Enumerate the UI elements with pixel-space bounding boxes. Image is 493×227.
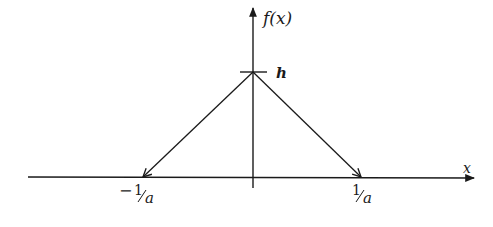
left-tick-label: − 1 a: [119, 181, 154, 207]
left-tick-numerator: 1: [134, 182, 143, 198]
y-axis-label: f(x): [261, 8, 292, 28]
right-slope-line: [253, 72, 361, 177]
right-tick-denominator: a: [363, 189, 372, 207]
left-slope-line: [143, 72, 253, 177]
x-axis-label: x: [463, 160, 471, 176]
peak-label: h: [276, 64, 287, 82]
triangle-function-diagram: f(x) x h − 1 a 1 a: [0, 0, 493, 227]
right-tick-numerator: 1: [352, 182, 361, 198]
left-tick-sign: −: [119, 181, 132, 200]
x-axis: [28, 177, 474, 178]
left-tick-denominator: a: [145, 189, 154, 207]
right-tick-label: 1 a: [352, 182, 372, 207]
